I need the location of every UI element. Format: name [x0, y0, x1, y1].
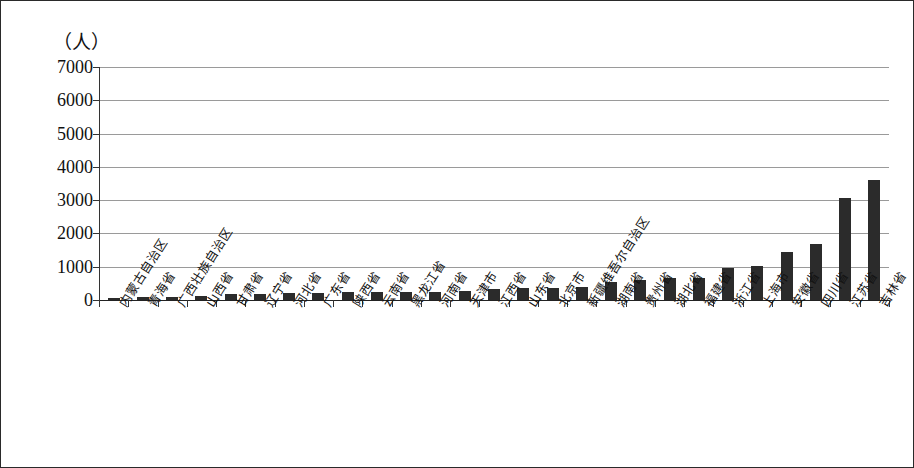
y-axis-tick-labels: 01000200030004000500060007000 — [1, 67, 93, 300]
y-axis-unit-label: （人） — [53, 27, 110, 54]
bar-series — [99, 67, 889, 300]
plot-area — [99, 67, 889, 300]
y-tick-label-3000: 3000 — [57, 190, 93, 211]
y-axis-line — [99, 67, 100, 300]
y-tick-label-1000: 1000 — [57, 256, 93, 277]
chart-figure: （人） 01000200030004000500060007000 内蒙古自治区… — [0, 0, 914, 468]
y-tick-label-7000: 7000 — [57, 57, 93, 78]
y-tick-label-4000: 4000 — [57, 156, 93, 177]
y-tick-label-2000: 2000 — [57, 223, 93, 244]
y-tick-label-5000: 5000 — [57, 123, 93, 144]
y-tick-label-6000: 6000 — [57, 90, 93, 111]
y-tick-label-0: 0 — [84, 290, 93, 311]
x-axis-category-labels: 内蒙古自治区青海省广西壮族自治区山西省甘肃省辽宁省河北省广东省陕西省云南省黑龙江… — [99, 303, 889, 453]
